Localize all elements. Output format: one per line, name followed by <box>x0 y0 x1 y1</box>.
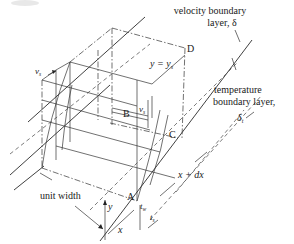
temperature-boundary-layer-symbol: δt <box>237 112 244 124</box>
vs-left-label: vs <box>35 66 41 77</box>
temperature-boundary-layer-label-1: temperature <box>214 84 262 95</box>
y-equals-ys-label: y = ys <box>149 58 174 70</box>
x-plus-dx-label: x + dx <box>177 169 204 180</box>
scan-smudge <box>11 0 39 6</box>
velocity-boundary-layer-label-2: layer, δ <box>207 17 237 28</box>
point-b-label: B <box>123 108 130 119</box>
point-c-label: C <box>169 129 176 140</box>
plate-lines <box>10 17 252 241</box>
tw-label: tw <box>140 201 147 212</box>
y-axis-label: y <box>107 201 113 212</box>
boundary-layer-control-volume-diagram: velocity boundary layer, δ temperature b… <box>0 0 294 244</box>
velocity-boundary-layer-label-1: velocity boundary <box>174 5 246 16</box>
arrows <box>40 30 254 240</box>
point-d-label: D <box>187 43 194 54</box>
ts-label: ts <box>150 212 155 223</box>
point-a-label: A <box>127 191 135 202</box>
vs-mid-label: vs <box>139 104 145 115</box>
temperature-boundary-layer-label-2: boundary layer, <box>213 96 275 107</box>
unit-width-label: unit width <box>40 190 81 201</box>
control-volume-box <box>42 28 185 201</box>
x-axis-label: x <box>117 224 123 235</box>
